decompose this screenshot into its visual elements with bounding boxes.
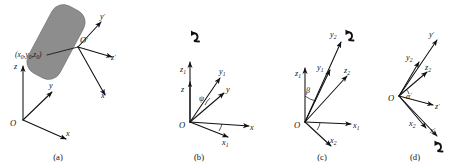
axis-y2-d — [399, 62, 419, 96]
axis-label-x1-c: x1 — [352, 121, 360, 131]
panel-caption-c: (c) — [317, 152, 327, 162]
panel-b: z1 z y1 y ψ x x1 O (b) — [179, 31, 254, 163]
origin-label-a: O — [10, 118, 16, 128]
axis-label-z-prime-a: z′ — [110, 53, 116, 62]
axis-label-y2-c: y2 — [329, 30, 337, 40]
panel-c: z1 y1 y2 z2 β x1 x2 — [294, 30, 360, 163]
axis-label-x2-c: x2 — [329, 136, 337, 146]
panel-caption-b: (b) — [194, 152, 204, 162]
panel-caption-a: (a) — [53, 152, 63, 162]
axis-z2-c — [305, 76, 347, 122]
axis-label-z2-c: z2 — [343, 66, 350, 76]
axis-z-prime-d — [399, 96, 433, 105]
axis-label-y1-c: y1 — [316, 63, 324, 73]
origin-label-b: O — [179, 120, 185, 130]
axis-label-y1-b: y1 — [218, 67, 226, 77]
rotation-arrow-b — [191, 31, 199, 42]
axis-label-z1-c: z1 — [294, 69, 301, 79]
panel-caption-d: (d) — [410, 152, 420, 162]
axis-label-z-b: z — [180, 85, 185, 94]
axis-label-z2-d: z2 — [424, 63, 431, 73]
axis-y2-c — [305, 42, 341, 122]
axis-x1-c — [305, 122, 351, 124]
euler-angle-diagram: z y x O y′ z′ x′ O′ (x0,y0,z0) — [0, 0, 456, 168]
axis-label-y-b: y — [225, 85, 230, 94]
axis-x2-c — [305, 122, 331, 146]
angle-arc-x-c — [317, 123, 320, 130]
panel-a: z y x O y′ z′ x′ O′ (x0,y0,z0) — [10, 0, 116, 162]
axis-label-x1-b: x1 — [221, 138, 229, 148]
axis-label-y-prime-a: y′ — [99, 12, 106, 21]
axis-label-x2-d: x2 — [408, 119, 416, 129]
axis-label-x-a: x — [65, 129, 70, 138]
angle-arc-x-b — [219, 124, 222, 131]
origin-label-d: O — [388, 93, 394, 103]
axis-label-z-prime-d: z′ — [434, 102, 440, 111]
axis-y-prime-d — [399, 40, 437, 96]
rotation-arrow-d — [435, 141, 443, 152]
axis-label-z-a: z — [13, 62, 18, 71]
body-origin-label-a: O′ — [80, 35, 88, 45]
rotation-arrow-c — [346, 30, 354, 41]
figure-root: z y x O y′ z′ x′ O′ (x0,y0,z0) — [0, 0, 456, 168]
axis-label-x-b: x — [249, 123, 254, 132]
angle-label-beta-c: β — [305, 86, 310, 95]
axis-label-y2-d: y2 — [405, 53, 413, 63]
origin-label-c: O — [294, 120, 300, 130]
axis-label-x-prime-a: x′ — [100, 91, 107, 100]
axis-label-y-prime-d: y′ — [428, 30, 435, 39]
axis-label-y-a: y — [48, 81, 53, 90]
panel-d: y′ y2 z2 z′ x2 x′ — [388, 30, 443, 162]
axis-label-z1-b: z1 — [179, 65, 186, 75]
